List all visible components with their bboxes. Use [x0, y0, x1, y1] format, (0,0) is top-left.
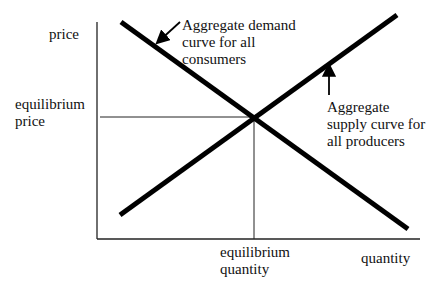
- supply-label-line2: supply curve for: [327, 116, 425, 133]
- demand-label-line2: curve for all: [182, 34, 255, 51]
- y-axis-label: price: [49, 26, 79, 43]
- demand-label-line3: consumers: [182, 51, 246, 68]
- supply-label-line1: Aggregate: [327, 99, 389, 116]
- equilibrium-quantity-label-line2: quantity: [220, 261, 269, 278]
- demand-label-arrow: [158, 22, 180, 42]
- demand-label-line1: Aggregate demand: [182, 17, 296, 34]
- equilibrium-quantity-label-line1: equilibrium: [220, 244, 290, 261]
- equilibrium-price-label-line1: equilibrium: [15, 96, 85, 113]
- supply-label-line3: all producers: [327, 133, 405, 150]
- x-axis-label: quantity: [361, 250, 410, 267]
- equilibrium-price-label-line2: price: [15, 113, 45, 130]
